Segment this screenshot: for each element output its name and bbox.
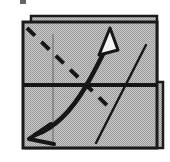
figure-canvas: Hand-drawn graph sketch Shaded rectangul… (0, 0, 170, 162)
sketch-illustration (0, 0, 170, 162)
stray-mark (20, 0, 26, 4)
